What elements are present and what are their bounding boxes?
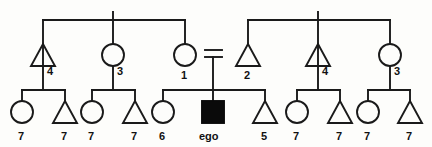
label-g2-female-7-d: 7: [364, 130, 370, 142]
label-g2-male-7-b: 7: [131, 130, 137, 142]
label-g2-ego: ego: [199, 130, 219, 142]
label-g2-female-7-a: 7: [18, 130, 24, 142]
label-g2-female-7-c: 7: [293, 130, 299, 142]
label-g1-right-male-2: 2: [244, 69, 250, 81]
symbol-g2-male-5: [253, 101, 277, 123]
symbol-g2-female-7-d: [357, 101, 379, 123]
pedigree-chart: 4 3 1 2 4 3: [0, 0, 432, 147]
symbol-g1-right-female-3: [379, 44, 401, 66]
label-g1-left-female-3: 3: [117, 65, 123, 77]
symbol-g2-male-7-b: [123, 101, 147, 123]
symbol-g2-female-7-b: [81, 101, 103, 123]
label-g1-left-female-1: 1: [181, 69, 187, 81]
label-g2-female-7-b: 7: [88, 130, 94, 142]
g2-sibship-bars: [22, 90, 410, 101]
pedigree-canvas: 4 3 1 2 4 3: [0, 0, 432, 147]
symbol-g2-male-7-d: [398, 101, 422, 123]
label-g2-male-7-a: 7: [61, 130, 67, 142]
symbol-g1-left-female-1: [174, 44, 196, 66]
label-g1-right-female-3: 3: [394, 65, 400, 77]
right-family-sibship-connector: [248, 12, 390, 44]
symbol-g2-female-7-c: [286, 101, 308, 123]
symbol-g2-male-7-a: [53, 101, 77, 123]
label-g2-male-5: 5: [261, 130, 267, 142]
symbol-g2-female-6: [152, 101, 174, 123]
symbol-g2-ego: [202, 101, 224, 123]
symbol-g1-left-female-3: [102, 44, 124, 66]
label-g2-male-7-d: 7: [406, 130, 412, 142]
label-g1-right-male-4: 4: [322, 65, 329, 77]
label-g2-female-6: 6: [159, 130, 165, 142]
left-family-sibship-connector: [43, 12, 185, 44]
symbol-g2-female-7-a: [11, 101, 33, 123]
marriage-union-symbol: [205, 50, 222, 90]
label-g2-male-7-c: 7: [336, 130, 342, 142]
symbol-g1-right-male-2: [236, 44, 260, 66]
label-g1-left-male-4: 4: [47, 65, 54, 77]
symbol-g2-male-7-c: [328, 101, 352, 123]
